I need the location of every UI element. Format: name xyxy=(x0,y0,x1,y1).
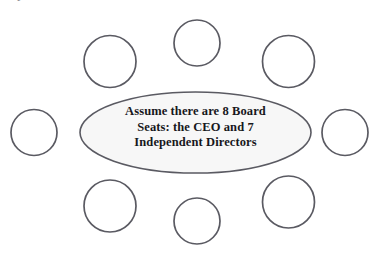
table-label-line-2: Seats: the CEO and 7 xyxy=(80,120,311,136)
seat-bottom-center[interactable] xyxy=(174,198,220,244)
seat-middle-right[interactable] xyxy=(322,110,368,156)
table-label-line-3: Independent Directors xyxy=(80,135,311,151)
seat-top-right[interactable] xyxy=(263,36,315,88)
seat-top-center[interactable] xyxy=(174,20,220,66)
seat-middle-left[interactable] xyxy=(11,110,57,156)
seat-bottom-right[interactable] xyxy=(263,176,315,228)
seat-bottom-left[interactable] xyxy=(84,180,136,232)
board-table-label: Assume there are 8 Board Seats: the CEO … xyxy=(80,104,311,151)
diagram-canvas: F Assume there are 8 Board Seats: the CE… xyxy=(0,0,389,266)
seat-top-left[interactable] xyxy=(84,36,136,88)
table-label-line-1: Assume there are 8 Board xyxy=(80,104,311,120)
